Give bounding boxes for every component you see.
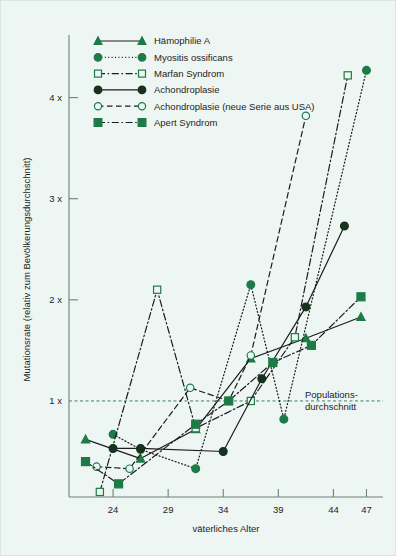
series-line <box>97 116 306 469</box>
annotation-group: Populations-durchschnitt <box>305 389 358 412</box>
data-point-marker <box>258 375 266 383</box>
data-point-marker <box>219 448 227 456</box>
data-point-marker <box>82 458 90 466</box>
legend-label: Marfan Syndrom <box>154 68 224 79</box>
x-tick-label: 29 <box>163 504 174 515</box>
legend-marker <box>138 86 146 94</box>
data-point-marker <box>302 112 309 119</box>
data-point-marker <box>307 341 315 349</box>
legend-marker <box>138 119 146 127</box>
y-tick-label: 3 x <box>49 193 62 204</box>
series-2 <box>96 72 351 496</box>
reference-label-line1: Populations- <box>305 389 358 400</box>
series-group <box>81 66 370 495</box>
legend-marker <box>138 54 146 62</box>
legend-label: Hämophilie A <box>154 35 211 46</box>
x-tick-label: 34 <box>218 504 229 515</box>
legend-label: Achondroplasie <box>154 84 220 95</box>
data-point-marker <box>269 359 277 367</box>
y-tick-label: 1 x <box>49 395 62 406</box>
x-axis-title: väterliches Alter <box>192 523 259 534</box>
data-point-marker <box>291 334 298 341</box>
legend-marker <box>139 70 146 77</box>
x-tick-label: 39 <box>273 504 284 515</box>
legend-marker <box>95 70 102 77</box>
mutation-rate-line-chart: 1 x2 x3 x4 x242934394447väterliches Alte… <box>0 0 396 556</box>
chart-figure: 1 x2 x3 x4 x242934394447väterliches Alte… <box>0 0 396 556</box>
data-point-marker <box>154 286 161 293</box>
y-tick-label: 2 x <box>49 294 62 305</box>
legend-item-4[interactable]: Achondroplasie (neue Serie aus USA) <box>94 101 314 112</box>
data-point-marker <box>247 281 255 289</box>
legend-item-3[interactable]: Achondroplasie <box>94 84 219 95</box>
data-point-marker <box>186 384 193 391</box>
data-point-marker <box>344 72 351 79</box>
reference-label-line2: durchschnitt <box>305 401 357 412</box>
data-point-marker <box>280 415 288 423</box>
data-point-marker <box>192 465 200 473</box>
data-point-marker <box>302 303 310 311</box>
data-point-marker <box>363 66 371 74</box>
series-3 <box>109 222 348 455</box>
legend-marker <box>94 86 102 94</box>
legend-marker <box>138 103 145 110</box>
legend-marker <box>94 119 102 127</box>
legend: Hämophilie AMyositis ossificansMarfan Sy… <box>94 35 315 128</box>
data-point-marker <box>357 313 365 321</box>
legend-marker <box>94 103 101 110</box>
data-point-marker <box>247 352 254 359</box>
series-line <box>113 226 344 451</box>
data-point-marker <box>81 435 89 443</box>
legend-item-0[interactable]: Hämophilie A <box>94 35 211 46</box>
y-tick-label: 4 x <box>49 92 62 103</box>
x-tick-label: 47 <box>361 504 372 515</box>
y-axis-title: Mutationsrate (relativ zum Bevölkerungsd… <box>21 158 32 382</box>
data-point-marker <box>357 293 365 301</box>
series-line <box>86 317 361 459</box>
series-4 <box>93 112 310 472</box>
data-point-marker <box>96 488 103 495</box>
legend-item-5[interactable]: Apert Syndrom <box>94 117 217 128</box>
data-point-marker <box>341 222 349 230</box>
data-point-marker <box>225 397 233 405</box>
legend-marker <box>94 54 102 62</box>
legend-item-2[interactable]: Marfan Syndrom <box>95 68 225 79</box>
data-point-marker <box>109 445 117 453</box>
series-line <box>100 75 348 492</box>
data-point-marker <box>126 465 133 472</box>
data-point-marker <box>192 420 200 428</box>
x-tick-label: 44 <box>328 504 339 515</box>
legend-label: Achondroplasie (neue Serie aus USA) <box>154 101 315 112</box>
data-point-marker <box>115 480 123 488</box>
legend-label: Myositis ossificans <box>154 52 233 63</box>
legend-label: Apert Syndrom <box>154 117 217 128</box>
legend-item-1[interactable]: Myositis ossificans <box>94 52 233 63</box>
x-tick-label: 24 <box>108 504 119 515</box>
